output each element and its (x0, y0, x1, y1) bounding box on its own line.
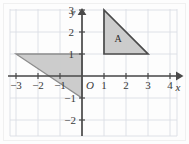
coordinate-plane-figure: −3 −2 −1 1 2 3 4 3 2 1 −1 −2 O x y A (0, 0, 189, 144)
y-tick-label: 1 (69, 48, 75, 60)
x-tick-label: 3 (145, 79, 151, 91)
coordinate-plane-svg: −3 −2 −1 1 2 3 4 3 2 1 −1 −2 O x y A (0, 0, 189, 144)
origin-label: O (86, 79, 94, 91)
y-tick-label: −2 (64, 114, 76, 126)
y-tick-label: 2 (69, 26, 75, 38)
x-tick-label: −3 (10, 79, 22, 91)
x-tick-label: 4 (167, 79, 173, 91)
y-tick-label: −1 (64, 92, 76, 104)
x-tick-label: −1 (54, 79, 66, 91)
x-axis-label: x (175, 81, 181, 93)
x-tick-label: 2 (123, 79, 129, 91)
x-tick-label: 1 (101, 79, 107, 91)
x-tick-label: −2 (32, 79, 44, 91)
triangle-a-label: A (114, 33, 122, 44)
y-axis-label: y (70, 6, 76, 18)
